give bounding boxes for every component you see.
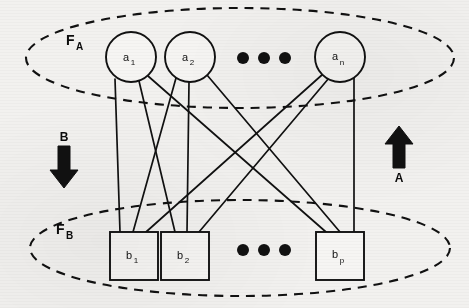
layer-b-nodes: b 1 b 2 b p <box>110 232 364 280</box>
field-fb-label: F <box>56 221 65 237</box>
diagram-canvas: a 1 a 2 a n b 1 b 2 b p <box>0 0 469 308</box>
node-a2[interactable] <box>165 32 215 82</box>
node-a1-label: a <box>123 51 130 63</box>
field-fa-label: F <box>66 32 75 48</box>
layer-a-ellipsis <box>237 52 291 64</box>
field-fa-subscript: A <box>76 41 83 52</box>
node-b1-subscript: 1 <box>134 256 139 265</box>
layer-a-nodes: a 1 a 2 a n <box>106 32 365 82</box>
ellipsis-dot-a-3 <box>279 52 291 64</box>
arrow-a-up: A <box>385 126 413 185</box>
field-fb-subscript: B <box>66 230 73 241</box>
node-b2-label: b <box>177 249 183 261</box>
node-an-label: a <box>332 50 339 62</box>
connection-lines <box>115 74 354 232</box>
node-bp-subscript: p <box>340 256 345 265</box>
bam-network-svg: a 1 a 2 a n b 1 b 2 b p <box>0 0 469 308</box>
arrow-a-up-icon <box>385 126 413 168</box>
ellipsis-dot-b-1 <box>237 244 249 256</box>
node-a2-label: a <box>182 51 189 63</box>
ellipsis-dot-b-3 <box>279 244 291 256</box>
node-b1-label: b <box>126 249 132 261</box>
layer-b-ellipsis <box>237 244 291 256</box>
arrow-b-down-icon <box>50 146 78 188</box>
node-an[interactable] <box>315 32 365 82</box>
arrow-b-down: B <box>50 130 78 188</box>
ellipsis-dot-b-2 <box>258 244 270 256</box>
ellipsis-dot-a-2 <box>258 52 270 64</box>
node-a1[interactable] <box>106 32 156 82</box>
node-bp-label: b <box>332 248 338 260</box>
connection-a2-bp <box>207 75 340 232</box>
connection-an-b2 <box>199 78 329 232</box>
arrow-b-label: B <box>60 130 69 144</box>
ellipsis-dot-a-1 <box>237 52 249 64</box>
connection-a1-bp <box>148 76 326 232</box>
node-an-subscript: n <box>340 58 344 67</box>
arrow-a-label: A <box>395 171 404 185</box>
node-a2-subscript: 2 <box>190 58 195 67</box>
node-a1-subscript: 1 <box>131 58 136 67</box>
connection-a2-b2 <box>187 82 189 232</box>
node-b2-subscript: 2 <box>185 256 190 265</box>
